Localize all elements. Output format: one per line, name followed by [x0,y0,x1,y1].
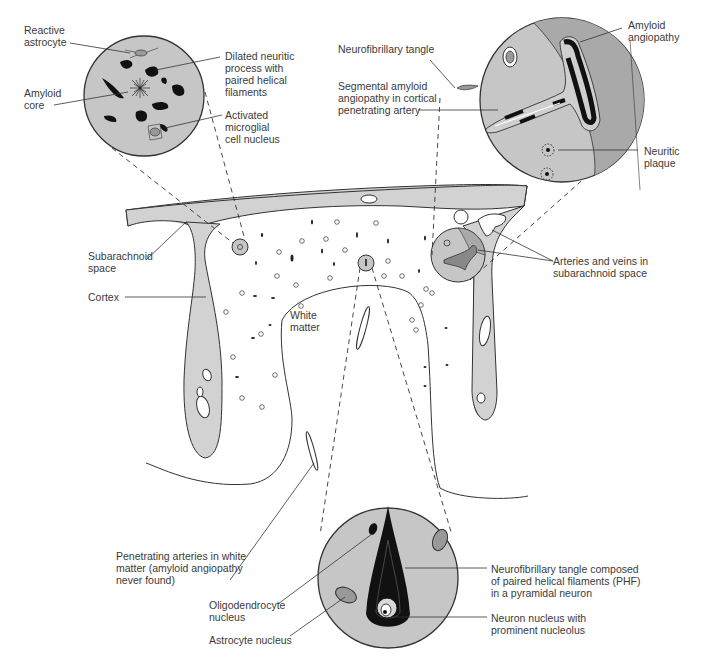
label-white-matter: White matter [290,309,320,333]
label-neuron-nucleus: Neuron nucleus with prominent nucleolus [491,612,586,636]
label-dilated-neuritic-process: Dilated neuritic process with paired hel… [225,50,294,98]
label-segmental-amyloid-angiopathy: Segmental amyloid angiopathy in cortical… [338,80,437,116]
label-arteries-veins: Arteries and veins in subarachnoid space [553,255,648,279]
plaque-source-circle [232,239,248,255]
label-cortex: Cortex [88,291,119,303]
label-nft-composed-phf: Neurofibrillary tangle composed of paire… [491,563,640,599]
label-amyloid-core: Amyloid core [24,87,61,111]
label-amyloid-angiopathy: Amyloid angiopathy [628,19,679,43]
cortical-dots [224,220,435,410]
label-neurofibrillary-tangle: Neurofibrillary tangle [338,43,434,55]
label-activated-microglial: Activated microglial cell nucleus [225,109,280,145]
label-oligodendrocyte-nucleus: Oligodendrocyte nucleus [209,599,285,623]
label-astrocyte-nucleus: Astrocyte nucleus [209,634,292,646]
label-reactive-astrocyte: Reactive astrocyte [24,24,67,48]
label-neuritic-plaque: Neuritic plaque [644,145,680,169]
cortical-marks [235,220,449,388]
plaque-detail-circle [84,36,204,156]
label-subarachnoid-space: Subarachnoid space [88,250,153,274]
neuron-detail-circle [318,506,458,648]
brain-section [126,185,527,459]
left-sulcus [184,222,222,458]
label-penetrating-arteries: Penetrating arteries in white matter (am… [116,550,246,586]
